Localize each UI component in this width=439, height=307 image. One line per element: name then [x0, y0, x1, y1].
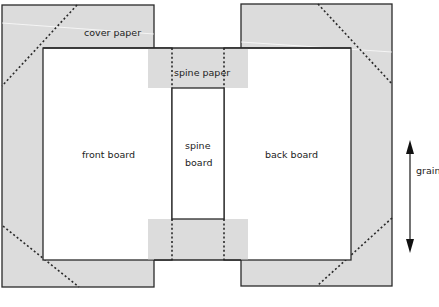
- label-back-board: back board: [265, 149, 318, 160]
- bookbinding-diagram: cover paper spine paper front board spin…: [0, 0, 439, 307]
- label-spine-board-1: spine: [185, 140, 211, 151]
- label-cover-paper: cover paper: [84, 27, 141, 38]
- label-spine-paper: spine paper: [174, 67, 230, 78]
- label-spine-board-2: board: [185, 157, 212, 168]
- label-front-board: front board: [82, 149, 135, 160]
- label-grain: grain: [416, 165, 439, 176]
- spine-board: [172, 88, 224, 219]
- grain-arrow-icon: [406, 140, 414, 253]
